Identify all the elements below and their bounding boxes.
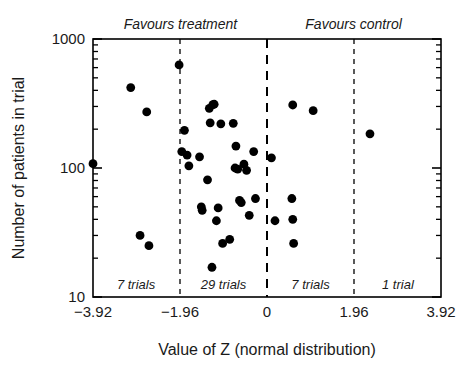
region-header-label: Favours treatment [124, 16, 239, 32]
y-tick-label: 1000 [52, 30, 85, 47]
data-point [212, 216, 221, 225]
x-tick-label: −1.96 [161, 303, 199, 320]
y-tick-label: 100 [60, 159, 85, 176]
x-tick-label: 3.92 [426, 303, 455, 320]
scatter-plot-figure: 101001000−3.92−1.9601.963.92Favours trea… [0, 0, 469, 371]
data-point [145, 241, 154, 250]
reference-lines [180, 39, 354, 297]
x-tick-label: −3.92 [74, 303, 112, 320]
data-point [237, 198, 246, 207]
data-point [198, 206, 207, 215]
data-point [206, 118, 215, 127]
data-point [142, 108, 151, 117]
data-point [208, 263, 217, 272]
x-tick-labels: −3.92−1.9601.963.92 [74, 303, 456, 320]
region-count-label: 29 trials [200, 277, 247, 292]
data-point [184, 161, 193, 170]
data-point [180, 126, 189, 135]
x-tick-label: 1.96 [339, 303, 368, 320]
data-point [267, 153, 276, 162]
data-point [210, 100, 219, 109]
annotations: Favours treatmentFavours control7 trials… [117, 16, 415, 292]
x-tick-label: 0 [263, 303, 271, 320]
data-point [271, 216, 280, 225]
data-point [203, 175, 212, 184]
data-point [216, 119, 225, 128]
data-point [126, 83, 135, 92]
region-count-label: 7 trials [117, 277, 156, 292]
region-count-label: 7 trials [291, 277, 330, 292]
data-point [229, 119, 238, 128]
data-point [287, 194, 296, 203]
data-point [195, 152, 204, 161]
data-point [309, 106, 318, 115]
region-count-label: 1 trial [382, 277, 415, 292]
y-tick-labels: 101001000 [52, 30, 85, 305]
x-axis-title: Value of Z (normal distribution) [158, 341, 376, 358]
y-axis-title: Number of patients in trial [10, 77, 27, 259]
data-point [89, 159, 98, 168]
data-point [289, 239, 298, 248]
data-point [249, 147, 258, 156]
data-point [245, 211, 254, 220]
data-point [288, 101, 297, 110]
data-points [89, 60, 375, 271]
data-point [366, 129, 375, 138]
data-point [183, 151, 192, 160]
data-point [136, 231, 145, 240]
data-point [214, 204, 223, 213]
data-point [288, 215, 297, 224]
data-point [242, 166, 251, 175]
data-point [175, 60, 184, 69]
data-point [225, 235, 234, 244]
data-point [232, 142, 241, 151]
data-point [251, 194, 260, 203]
region-header-label: Favours control [305, 16, 402, 32]
